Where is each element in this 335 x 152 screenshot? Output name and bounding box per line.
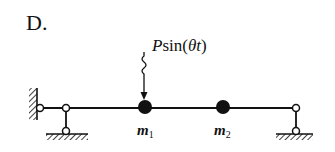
pinned-support-left bbox=[46, 105, 88, 141]
option-label: D. bbox=[26, 10, 47, 36]
load-label: Psin(θt) bbox=[152, 36, 207, 56]
mass-name: m bbox=[137, 122, 149, 138]
mass-label-m1: m1 bbox=[137, 122, 154, 140]
mass-m1 bbox=[138, 100, 152, 114]
load-argument: θt bbox=[188, 36, 201, 55]
beam-diagram bbox=[0, 0, 335, 152]
load-function: sin( bbox=[162, 36, 188, 55]
mass-m2 bbox=[216, 100, 230, 114]
mass-name: m bbox=[214, 122, 226, 138]
pinned-support-right bbox=[276, 105, 313, 141]
load-arrow-icon bbox=[141, 52, 148, 100]
load-symbol: P bbox=[152, 36, 162, 55]
mass-subscript: 2 bbox=[226, 129, 231, 140]
load-close: ) bbox=[201, 36, 207, 55]
hinge-wall bbox=[37, 105, 44, 112]
mass-subscript: 1 bbox=[149, 129, 154, 140]
mass-label-m2: m2 bbox=[214, 122, 231, 140]
fixed-wall-support bbox=[29, 88, 37, 120]
